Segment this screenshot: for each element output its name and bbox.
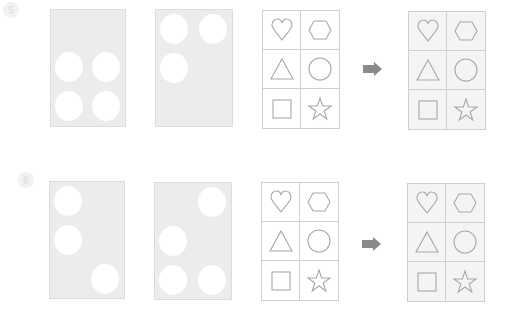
grid-cell <box>446 223 484 262</box>
star-icon <box>453 97 479 123</box>
grid-cell <box>408 184 446 223</box>
right-arrow-icon <box>363 62 383 76</box>
punched-card-a <box>49 181 125 299</box>
hole <box>54 186 82 216</box>
hole <box>160 14 188 44</box>
punched-card-a <box>50 9 126 127</box>
punched-card-b <box>155 9 233 127</box>
grid-cell <box>446 262 484 301</box>
grid-cell <box>300 222 338 261</box>
hole <box>55 91 83 121</box>
grid-cell <box>446 184 484 223</box>
star-icon <box>307 96 333 122</box>
grid-cell <box>408 262 446 301</box>
circle-icon <box>306 228 332 254</box>
hole <box>55 52 83 82</box>
star-icon <box>306 268 332 294</box>
grid-cell <box>409 51 447 90</box>
hole <box>198 187 226 217</box>
grid-cell <box>409 12 447 51</box>
square-icon <box>268 268 294 294</box>
grid-cell <box>447 90 485 129</box>
hole <box>159 265 187 295</box>
hexagon-icon <box>452 190 478 216</box>
grid-cell <box>409 90 447 129</box>
grid-cell <box>300 183 338 222</box>
grid-cell <box>263 89 301 128</box>
grid-cell <box>447 12 485 51</box>
hole <box>92 91 120 121</box>
hexagon-icon <box>453 18 479 44</box>
grid-cell <box>263 11 301 50</box>
shape-grid-result <box>407 183 485 302</box>
hexagon-icon <box>307 17 333 43</box>
right-arrow-icon <box>362 237 382 251</box>
shape-grid-source <box>261 182 339 301</box>
grid-cell <box>262 222 300 261</box>
heart-icon <box>415 18 441 44</box>
grid-cell <box>301 50 339 89</box>
grid-cell <box>408 223 446 262</box>
triangle-icon <box>268 228 294 254</box>
grid-cell <box>262 183 300 222</box>
circle-icon <box>453 57 479 83</box>
triangle-icon <box>269 56 295 82</box>
question-number-marker: 6 <box>18 172 34 188</box>
shape-grid-result <box>408 11 486 130</box>
circle-icon <box>307 56 333 82</box>
triangle-icon <box>414 229 440 255</box>
heart-icon <box>268 189 294 215</box>
circle-icon <box>452 229 478 255</box>
grid-cell <box>300 261 338 300</box>
grid-cell <box>301 11 339 50</box>
heart-icon <box>414 190 440 216</box>
grid-cell <box>447 51 485 90</box>
heart-icon <box>269 17 295 43</box>
grid-cell <box>263 50 301 89</box>
hole <box>199 14 227 44</box>
hole <box>159 226 187 256</box>
hole <box>92 52 120 82</box>
square-icon <box>269 96 295 122</box>
punched-card-b <box>154 182 232 300</box>
shape-grid-source <box>262 10 340 129</box>
grid-cell <box>301 89 339 128</box>
triangle-icon <box>415 57 441 83</box>
hole <box>91 264 119 294</box>
square-icon <box>414 269 440 295</box>
grid-cell <box>262 261 300 300</box>
hexagon-icon <box>306 189 332 215</box>
star-icon <box>452 269 478 295</box>
hole <box>160 53 188 83</box>
hole <box>198 265 226 295</box>
hole <box>54 225 82 255</box>
question-number-marker: 5 <box>3 2 19 18</box>
square-icon <box>415 97 441 123</box>
